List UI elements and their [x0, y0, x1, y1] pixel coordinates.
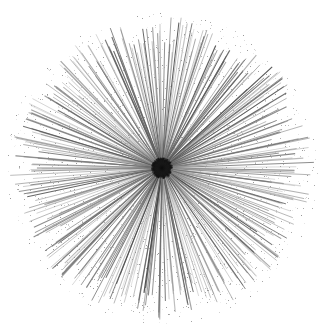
- radial-burst-canvas: [0, 0, 327, 334]
- radial-burst-figure: A dense starburst of several hundred thi…: [0, 0, 327, 334]
